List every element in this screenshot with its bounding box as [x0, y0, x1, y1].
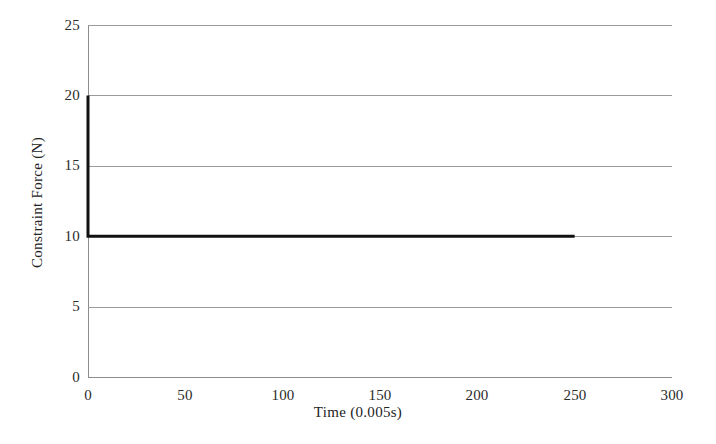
x-tick-label: 300	[660, 388, 683, 403]
y-tick-label: 25	[65, 18, 80, 33]
y-axis-title-container: Constraint Force (N)	[26, 0, 48, 404]
y-tick-label: 10	[65, 229, 80, 244]
y-tick-label: 20	[65, 88, 80, 103]
x-axis-line	[88, 377, 672, 378]
x-tick-label: 200	[465, 388, 488, 403]
y-tick-label: 15	[65, 158, 80, 173]
x-tick-label: 250	[563, 388, 586, 403]
y-axis-tick-labels: 25 20 15 10 5 0	[52, 0, 80, 444]
x-tick-label: 150	[368, 388, 391, 403]
x-tick-label: 100	[271, 388, 294, 403]
x-axis-title: Time (0.005s)	[0, 404, 716, 421]
plot-area	[88, 25, 672, 377]
y-tick-label: 0	[72, 370, 80, 385]
x-tick-label: 0	[84, 388, 92, 403]
data-series-constraint-force	[88, 25, 672, 377]
chart-figure: 25 20 15 10 5 0 0 50 100 150 200 250 300…	[0, 0, 716, 444]
x-tick-label: 50	[177, 388, 192, 403]
y-tick-label: 5	[72, 299, 80, 314]
y-axis-title: Constraint Force (N)	[29, 137, 46, 268]
series-polyline	[88, 95, 575, 236]
